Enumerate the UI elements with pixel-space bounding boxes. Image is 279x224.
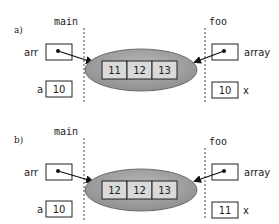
panel-b: b) main arr a 10 12 12 13 foo array 11 x [14,126,270,220]
pointer-var-label: arr [24,47,39,58]
value-var-label: x [243,85,249,96]
diagram-canvas: a) main arr a 10 11 12 13 foo array 10 x [0,0,279,224]
array-cells: 12 12 13 [102,181,177,199]
array-cell-value: 11 [108,65,121,76]
frame-title-foo: foo [209,136,227,147]
array-cell-value: 12 [133,65,146,76]
pointer-var-label: array [244,167,270,178]
array-cell-value: 13 [158,185,171,196]
value-var-label: a [37,204,43,215]
value-text: 10 [53,204,66,215]
array-cell-value: 13 [158,65,171,76]
pointer-var-label: array [244,47,270,58]
panel-label: a) [14,25,23,35]
frame-title-main: main [54,126,78,137]
value-text: 10 [53,84,66,95]
value-var-label: a [37,84,43,95]
frame-title-foo: foo [209,16,227,27]
value-text: 11 [219,205,232,216]
frame-title-main: main [54,16,78,27]
value-var-label: x [243,205,249,216]
array-cells: 11 12 13 [102,61,177,79]
array-cell-value: 12 [108,185,121,196]
panel-label: b) [14,135,23,145]
array-cell-value: 12 [133,185,146,196]
panel-a: a) main arr a 10 11 12 13 foo array 10 x [14,16,270,102]
pointer-var-label: arr [24,167,39,178]
value-text: 10 [219,85,232,96]
